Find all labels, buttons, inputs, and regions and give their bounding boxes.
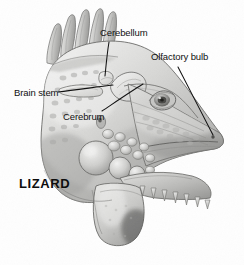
nostril bbox=[211, 135, 214, 138]
figure-title: LIZARD bbox=[19, 177, 70, 190]
pupil bbox=[160, 98, 164, 101]
lizard-head-illustration bbox=[0, 0, 244, 265]
eye-highlight bbox=[158, 97, 161, 99]
label-cerebellum: Cerebellum bbox=[100, 28, 148, 38]
label-cerebrum: Cerebrum bbox=[63, 112, 104, 122]
label-olfactory-bulb: Olfactory bulb bbox=[151, 52, 208, 62]
label-brain-stem: Brain stem bbox=[14, 88, 58, 98]
lizard-brain-figure: Cerebellum Olfactory bulb Brain stem Cer… bbox=[0, 0, 244, 265]
